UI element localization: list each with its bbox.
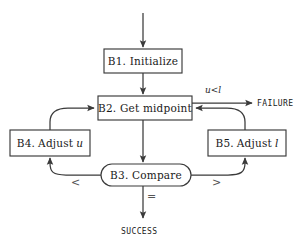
node-b1-shape: [104, 49, 182, 73]
node-b2-shape: [98, 96, 192, 120]
node-b5-shape: [208, 130, 286, 156]
edge-b5-to-b2: [196, 108, 245, 130]
edge-b4-to-b2: [50, 108, 94, 130]
flowchart-diagram: B1. Initialize B2. Get midpoint B4. Adju…: [0, 0, 306, 245]
edge-b3-to-b4: [50, 158, 101, 175]
flowchart-canvas: [0, 0, 306, 245]
node-b3-shape: [101, 164, 191, 186]
edge-b3-to-b5: [191, 158, 245, 175]
node-b4-shape: [10, 130, 90, 156]
